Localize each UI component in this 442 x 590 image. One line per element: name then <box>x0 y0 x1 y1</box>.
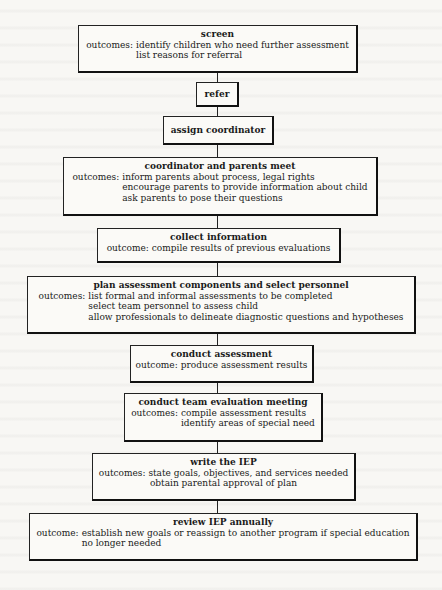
step-outcomes: outcome: establish new goals or reassign… <box>34 528 412 549</box>
step-refer: refer <box>196 82 239 107</box>
connector-collect-to-plan <box>217 262 218 276</box>
step-team-evaluation-meeting: conduct team evaluation meeting outcomes… <box>124 393 323 442</box>
step-title: write the IEP <box>97 457 350 468</box>
outcomes-label: outcomes: <box>86 40 136 61</box>
outcome-item: ask parents to pose their questions <box>122 193 367 204</box>
outcome-item: identify children who need further asses… <box>136 40 349 51</box>
outcome-item: select team personnel to assess child <box>88 301 403 312</box>
outcome-item: compile assessment results <box>181 408 315 419</box>
outcomes-label: outcome: <box>136 360 181 371</box>
outcome-item: inform parents about process, legal righ… <box>122 172 367 183</box>
step-outcomes: outcome: compile results of previous eva… <box>102 243 335 254</box>
step-review-iep: review IEP annually outcome: establish n… <box>29 513 418 561</box>
step-title: conduct team evaluation meeting <box>129 397 317 408</box>
step-coordinator-parents-meet: coordinator and parents meet outcomes: i… <box>63 157 378 216</box>
outcome-item: allow professionals to delineate diagnos… <box>88 312 403 323</box>
outcomes-label: outcomes: <box>39 291 89 323</box>
outcome-item: compile results of previous evaluations <box>152 243 331 254</box>
connector-meet-to-collect <box>217 215 218 228</box>
outcome-item: list reasons for referral <box>136 50 349 61</box>
step-outcomes: outcomes: inform parents about process, … <box>68 172 372 204</box>
step-screen: screen outcomes: identify children who n… <box>78 25 358 73</box>
step-title: refer <box>205 89 230 100</box>
step-outcomes: outcomes: identify children who need fur… <box>83 40 352 61</box>
step-title: assign coordinator <box>171 125 266 136</box>
outcome-item: produce assessment results <box>181 360 308 371</box>
step-write-iep: write the IEP outcomes: state goals, obj… <box>92 453 356 501</box>
step-title: coordinator and parents meet <box>68 161 372 172</box>
step-title: plan assessment components and select pe… <box>32 280 410 291</box>
connector-refer-to-assign <box>217 106 218 116</box>
outcome-item: identify areas of special need <box>181 418 315 429</box>
outcome-item: encourage parents to provide information… <box>122 182 367 193</box>
outcomes-label: outcomes: <box>131 408 181 429</box>
step-outcomes: outcomes: state goals, objectives, and s… <box>97 468 350 489</box>
outcome-item: no longer needed <box>82 538 410 549</box>
step-collect-information: collect information outcome: compile res… <box>97 228 341 263</box>
connector-plan-to-conduct <box>217 333 218 345</box>
step-title: review IEP annually <box>34 517 412 528</box>
step-title: screen <box>83 29 352 40</box>
connector-conduct-to-team <box>217 382 218 393</box>
outcome-item: list formal and informal assessments to … <box>88 291 403 302</box>
outcome-line: outcomes: state goals, objectives, and s… <box>99 468 349 479</box>
connector-team-to-write <box>217 441 218 453</box>
connector-write-to-review <box>217 500 218 513</box>
outcomes-label: outcome: <box>36 528 81 549</box>
step-outcomes: outcomes: list formal and informal asses… <box>32 291 410 323</box>
outcomes-label: outcome: <box>107 243 152 254</box>
step-outcomes: outcome: produce assessment results <box>135 360 308 371</box>
connector-assign-to-meet <box>217 144 218 157</box>
step-plan-assessment: plan assessment components and select pe… <box>27 276 416 334</box>
step-conduct-assessment: conduct assessment outcome: produce asse… <box>130 345 314 383</box>
step-assign-coordinator: assign coordinator <box>163 116 274 145</box>
outcomes-label: outcomes: <box>72 172 122 204</box>
outcome-item: establish new goals or reassign to anoth… <box>82 528 410 539</box>
connector-screen-to-refer <box>217 72 218 82</box>
step-title: conduct assessment <box>135 349 308 360</box>
step-outcomes: outcomes: compile assessment results ide… <box>129 408 317 429</box>
step-title: collect information <box>102 232 335 243</box>
outcome-line: obtain parental approval of plan <box>150 478 297 489</box>
